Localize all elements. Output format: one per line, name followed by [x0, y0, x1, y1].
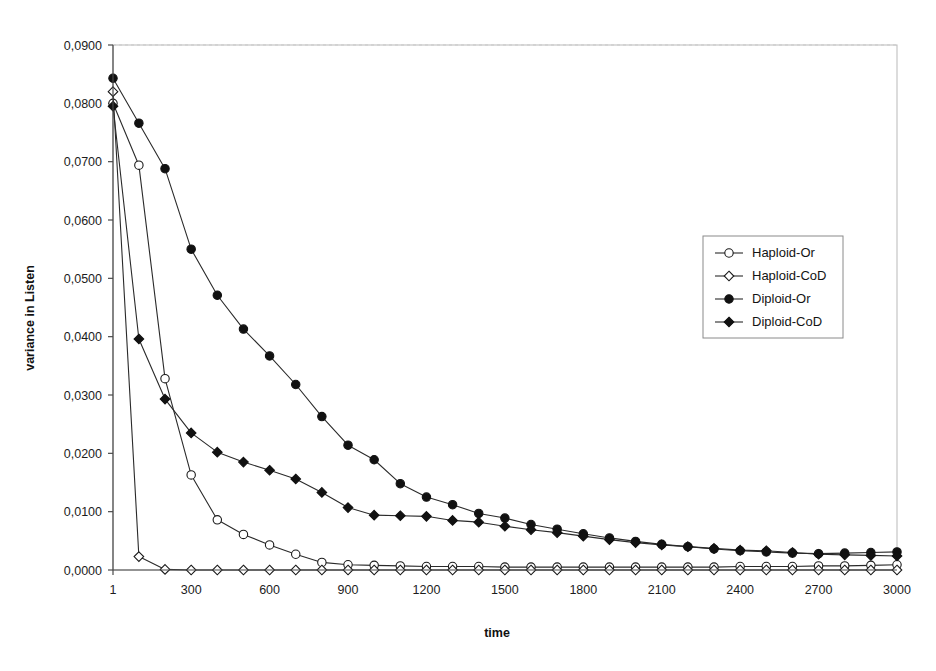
y-axis-tick-label: 0,0500 — [64, 272, 102, 286]
y-axis-tick-label: 0,0600 — [64, 214, 102, 228]
y-axis-title: variance in Listen — [23, 265, 37, 371]
y-axis-tick-label: 0,0800 — [64, 97, 102, 111]
x-axis-tick-label: 1800 — [569, 583, 597, 597]
data-point-marker — [474, 517, 484, 527]
data-point-marker — [213, 291, 221, 299]
data-point-marker — [265, 465, 275, 475]
data-point-marker — [160, 394, 170, 404]
data-point-marker — [187, 245, 195, 253]
data-point-marker — [448, 516, 458, 526]
x-axis-tick-label: 1500 — [491, 583, 519, 597]
data-point-marker — [369, 510, 379, 520]
data-point-marker — [239, 530, 247, 538]
legend-item-label: Diploid-Or — [752, 291, 811, 306]
data-point-marker — [422, 493, 430, 501]
data-point-marker — [448, 500, 456, 508]
data-point-marker — [134, 552, 144, 562]
data-point-marker — [292, 550, 300, 558]
data-point-marker — [213, 516, 221, 524]
y-axis-tick-label: 0,0700 — [64, 155, 102, 169]
data-point-marker — [344, 441, 352, 449]
data-point-marker — [292, 380, 300, 388]
chart-legend: Haploid-OrHaploid-CoDDiploid-OrDiploid-C… — [703, 236, 843, 338]
y-axis-tick-label: 0,0400 — [64, 330, 102, 344]
data-point-marker — [135, 161, 143, 169]
variance-in-listen-line-chart: 0,00000,01000,02000,03000,04000,05000,06… — [0, 0, 936, 671]
legend-item-label: Diploid-CoD — [752, 314, 822, 329]
data-point-marker — [683, 542, 693, 552]
y-axis-ticks: 0,00000,01000,02000,03000,04000,05000,06… — [64, 39, 113, 578]
data-point-marker — [213, 447, 223, 457]
legend-item-label: Haploid-CoD — [752, 268, 826, 283]
legend-marker-icon — [725, 249, 733, 257]
y-axis-tick-label: 0,0000 — [64, 564, 102, 578]
data-point-marker — [187, 471, 195, 479]
x-axis-tick-label: 2400 — [726, 583, 754, 597]
data-point-marker — [343, 503, 353, 513]
data-point-marker — [161, 164, 169, 172]
x-axis-tick-label: 600 — [259, 583, 280, 597]
data-point-marker — [239, 457, 249, 467]
data-point-marker — [135, 119, 143, 127]
legend-item-label: Haploid-Or — [752, 245, 816, 260]
y-axis-tick-label: 0,0200 — [64, 447, 102, 461]
y-axis-tick-label: 0,0300 — [64, 389, 102, 403]
data-point-marker — [370, 456, 378, 464]
data-point-marker — [318, 412, 326, 420]
x-axis-tick-label: 2100 — [648, 583, 676, 597]
data-point-marker — [396, 511, 406, 521]
data-point-marker — [161, 374, 169, 382]
y-axis-tick-label: 0,0900 — [64, 39, 102, 53]
legend-marker-icon — [725, 295, 733, 303]
x-axis-tick-label: 2700 — [805, 583, 833, 597]
x-axis-tick-label: 3000 — [883, 583, 911, 597]
x-axis-tick-label: 300 — [181, 583, 202, 597]
data-point-marker — [134, 334, 144, 344]
x-axis-ticks: 13006009001200150018002100240027003000 — [110, 570, 911, 597]
x-axis-tick-label: 1 — [110, 583, 117, 597]
data-point-marker — [265, 541, 273, 549]
chart-container: 0,00000,01000,02000,03000,04000,05000,06… — [0, 0, 936, 671]
x-axis-tick-label: 1200 — [413, 583, 441, 597]
data-point-marker — [475, 509, 483, 517]
data-point-marker — [186, 428, 196, 438]
x-axis-tick-label: 900 — [338, 583, 359, 597]
y-axis-tick-label: 0,0100 — [64, 505, 102, 519]
data-point-marker — [396, 479, 404, 487]
x-axis-title: time — [484, 626, 510, 640]
data-point-marker — [239, 325, 247, 333]
data-point-marker — [422, 512, 432, 522]
data-point-marker — [265, 352, 273, 360]
data-point-marker — [500, 521, 510, 531]
data-point-marker — [291, 474, 301, 484]
data-point-marker — [317, 488, 327, 498]
